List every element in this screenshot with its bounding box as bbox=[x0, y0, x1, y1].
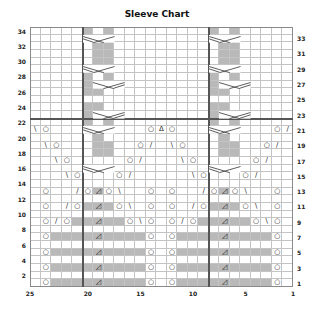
chart-cell bbox=[30, 249, 41, 257]
chart-cell bbox=[209, 119, 220, 127]
yarn-over-icon: ○ bbox=[198, 203, 209, 211]
chart-cell bbox=[230, 203, 241, 211]
chart-cell bbox=[230, 233, 241, 241]
chart-cell bbox=[104, 58, 115, 66]
chart-cell bbox=[125, 103, 136, 111]
chart-cell bbox=[62, 264, 73, 272]
chart-cell bbox=[272, 58, 283, 66]
chart-cell bbox=[51, 279, 62, 287]
chart-cell bbox=[209, 233, 220, 241]
chart-cell bbox=[62, 126, 73, 134]
chart-cell bbox=[104, 157, 115, 165]
chart-cell bbox=[177, 73, 188, 81]
chart-cell bbox=[209, 203, 220, 211]
chart-cell bbox=[156, 203, 167, 211]
chart-cell bbox=[230, 134, 241, 142]
chart-cell bbox=[93, 73, 104, 81]
cable-cross-icon bbox=[83, 65, 115, 73]
chart-cell bbox=[62, 27, 73, 35]
chart-cell bbox=[156, 272, 167, 280]
chart-cell bbox=[51, 195, 62, 203]
chart-cell bbox=[261, 172, 272, 180]
chart-cell bbox=[114, 256, 125, 264]
chart-cell bbox=[125, 50, 136, 58]
chart-cell bbox=[83, 211, 94, 219]
chart-cell bbox=[51, 35, 62, 43]
chart-cell bbox=[251, 73, 262, 81]
chart-cell bbox=[146, 88, 157, 96]
chart-cell bbox=[62, 35, 73, 43]
chart-cell bbox=[104, 96, 115, 104]
chart-cell bbox=[261, 226, 272, 234]
chart-cell bbox=[240, 42, 251, 50]
yarn-over-icon: ○ bbox=[198, 172, 209, 180]
chart-cell bbox=[156, 149, 167, 157]
yarn-over-icon: ○ bbox=[167, 218, 178, 226]
yarn-over-icon: ○ bbox=[62, 157, 73, 165]
yarn-over-icon: ○ bbox=[167, 203, 178, 211]
yarn-over-icon: ○ bbox=[41, 188, 52, 196]
chart-cell bbox=[135, 103, 146, 111]
row-label-right: 23 bbox=[297, 112, 313, 119]
chart-cell bbox=[30, 279, 41, 287]
chart-cell bbox=[188, 126, 199, 134]
chart-cell bbox=[51, 65, 62, 73]
chart-cell bbox=[93, 50, 104, 58]
chart-cell bbox=[41, 50, 52, 58]
chart-cell bbox=[240, 249, 251, 257]
row-label-right: 31 bbox=[297, 50, 313, 57]
chart-cell bbox=[83, 233, 94, 241]
chart-cell bbox=[125, 279, 136, 287]
chart-cell bbox=[282, 195, 293, 203]
yarn-over-icon: ○ bbox=[188, 157, 199, 165]
chart-cell bbox=[30, 149, 41, 157]
chart-cell bbox=[261, 27, 272, 35]
chart-cell bbox=[30, 134, 41, 142]
chart-cell bbox=[125, 126, 136, 134]
ssk-icon: \ bbox=[251, 203, 262, 211]
chart-cell bbox=[240, 65, 251, 73]
chart-cell bbox=[146, 103, 157, 111]
k2tog-icon: / bbox=[198, 188, 209, 196]
k2tog-icon: / bbox=[177, 218, 188, 226]
yarn-over-icon: ○ bbox=[272, 233, 283, 241]
chart-cell bbox=[135, 188, 146, 196]
chart-cell bbox=[177, 233, 188, 241]
chart-cell bbox=[282, 42, 293, 50]
row-label-right: 19 bbox=[297, 142, 313, 149]
k2tog-icon: / bbox=[135, 157, 146, 165]
row-label-right: 3 bbox=[297, 265, 313, 272]
chart-cell bbox=[30, 27, 41, 35]
chart-cell bbox=[83, 241, 94, 249]
row-label-left: 8 bbox=[10, 226, 26, 233]
chart-cell bbox=[219, 172, 230, 180]
cable-cross-icon bbox=[209, 165, 241, 173]
chart-cell bbox=[30, 226, 41, 234]
chart-cell bbox=[240, 157, 251, 165]
chart-cell bbox=[83, 50, 94, 58]
chart-cell bbox=[62, 58, 73, 66]
chart-cell bbox=[83, 142, 94, 150]
shaded-decrease-icon: ◿ bbox=[93, 218, 104, 226]
chart-cell bbox=[209, 96, 220, 104]
chart-cell bbox=[261, 203, 272, 211]
chart-cell bbox=[62, 103, 73, 111]
yarn-over-icon: ○ bbox=[41, 218, 52, 226]
chart-cell bbox=[240, 279, 251, 287]
chart-cell bbox=[51, 50, 62, 58]
chart-cell bbox=[240, 50, 251, 58]
row-label-right: 17 bbox=[297, 158, 313, 165]
chart-cell bbox=[188, 279, 199, 287]
chart-cell bbox=[209, 42, 220, 50]
chart-cell bbox=[167, 149, 178, 157]
chart-cell bbox=[62, 188, 73, 196]
chart-cell bbox=[51, 81, 62, 89]
chart-cell bbox=[51, 241, 62, 249]
chart-cell bbox=[251, 119, 262, 127]
chart-cell bbox=[135, 96, 146, 104]
column-label: 5 bbox=[238, 290, 254, 297]
chart-cell bbox=[114, 119, 125, 127]
shaded-decrease-icon: ◿ bbox=[219, 203, 230, 211]
column-label: 25 bbox=[22, 290, 38, 297]
chart-cell bbox=[51, 165, 62, 173]
